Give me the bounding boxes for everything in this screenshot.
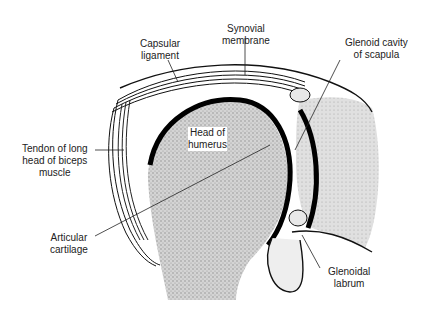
label-head-humerus: Head of humerus xyxy=(188,127,227,151)
label-capsular-ligament: Capsular ligament xyxy=(140,38,180,62)
label-tendon-biceps: Tendon of long head of biceps muscle xyxy=(22,143,88,179)
label-articular-cartilage: Articular cartilage xyxy=(50,232,88,256)
label-glenoid-cavity: Glenoid cavity of scapula xyxy=(345,37,408,61)
biceps-tendon xyxy=(118,100,148,240)
label-synovial-membrane: Synovial membrane xyxy=(222,23,270,47)
glenoidal-labrum-loop xyxy=(268,238,303,292)
labrum-top xyxy=(290,88,310,102)
labrum-bottom xyxy=(289,210,307,226)
label-glenoidal-labrum: Glenoidal labrum xyxy=(328,266,370,290)
